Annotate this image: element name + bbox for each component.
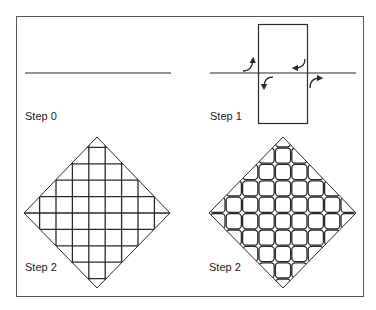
rounded-grid-cell: [341, 263, 356, 278]
rounded-grid-cell: [325, 164, 340, 179]
rounded-grid-cell: [275, 263, 290, 278]
rounded-grid-cell: [292, 148, 307, 163]
rounded-grid-cell: [325, 132, 340, 147]
rounded-grid-cell: [292, 246, 307, 261]
rounded-grid-cell: [243, 230, 258, 245]
rounded-grid-cell: [275, 148, 290, 163]
rounded-grid-cell: [292, 230, 307, 245]
rounded-grid-cell: [308, 279, 323, 294]
step2-left-label: Step 2: [25, 262, 57, 273]
rounded-grid-cell: [341, 181, 356, 196]
rounded-grid-cell: [325, 197, 340, 212]
rounded-grid-cell: [325, 279, 340, 294]
rounded-grid-cell: [210, 246, 225, 261]
rounded-grid-cell: [243, 263, 258, 278]
rounded-grid-cell: [259, 214, 274, 229]
rounded-grid-cell: [292, 164, 307, 179]
rounded-grid-cell: [275, 181, 290, 196]
rounded-grid-cell: [325, 148, 340, 163]
rounded-grid-cell: [210, 164, 225, 179]
rounded-grid-cell: [292, 279, 307, 294]
rounded-grid-cell: [357, 132, 372, 147]
rounded-grid-cell: [259, 197, 274, 212]
rounded-grid-cell: [226, 132, 241, 147]
rounded-grid-cell: [292, 132, 307, 147]
rounded-grid-cell: [226, 214, 241, 229]
rounded-grid-cell: [243, 214, 258, 229]
rounded-grid-cell: [357, 246, 372, 261]
rounded-grid-cell: [259, 230, 274, 245]
rounded-grid-cell: [275, 197, 290, 212]
arrow-right-bottom-right-icon: [310, 78, 320, 88]
rounded-grid-cell: [357, 197, 372, 212]
rounded-grid-cell: [210, 279, 225, 294]
rounded-grid-cell: [357, 230, 372, 245]
rounded-grid-cell: [226, 246, 241, 261]
rounded-grid-cell: [308, 230, 323, 245]
rounded-grid-cell: [325, 263, 340, 278]
rounded-grid-cell: [259, 132, 274, 147]
rounded-grid-cell: [226, 148, 241, 163]
arrow-down-left-icon: [264, 77, 273, 87]
rounded-grid-cell: [308, 197, 323, 212]
rounded-grid-cell: [243, 132, 258, 147]
rounded-grid-cell: [259, 263, 274, 278]
rounded-grid-cell: [275, 246, 290, 261]
rounded-grid-cell: [292, 214, 307, 229]
rounded-grid-cell: [243, 197, 258, 212]
arrow-up-left-icon: [243, 60, 253, 71]
rounded-grid-cell: [259, 164, 274, 179]
rounded-grid-cell: [308, 132, 323, 147]
rounded-grid-cell: [275, 279, 290, 294]
rounded-grid-cell: [226, 197, 241, 212]
rounded-grid-cell: [308, 181, 323, 196]
rounded-grid-cell: [259, 181, 274, 196]
rounded-grid-cell: [259, 279, 274, 294]
rounded-grid-cell: [275, 230, 290, 245]
rounded-grid-cell: [308, 148, 323, 163]
rounded-grid-cell: [243, 181, 258, 196]
rounded-grid-cell: [292, 181, 307, 196]
rounded-grid-cell: [357, 148, 372, 163]
rounded-grid-cell: [308, 214, 323, 229]
step1-rectangle: [259, 25, 308, 124]
step0-label: Step 0: [25, 111, 57, 122]
rounded-grid-cell: [259, 148, 274, 163]
rounded-grid-cell: [226, 279, 241, 294]
rounded-grid-cell: [357, 214, 372, 229]
step2-right-label: Step 2: [209, 262, 241, 273]
rounded-grid-cell: [357, 181, 372, 196]
rounded-grid-cell: [243, 148, 258, 163]
step1-figure: [210, 25, 356, 124]
rounded-grid-cell: [341, 148, 356, 163]
rounded-grid-cell: [341, 132, 356, 147]
rounded-grid-cell: [341, 246, 356, 261]
arrow-left-top-right-icon: [295, 59, 305, 68]
rounded-grid-cell: [325, 246, 340, 261]
rounded-grid-cell: [357, 164, 372, 179]
rounded-grid-cell: [308, 263, 323, 278]
rounded-grid-cell: [357, 263, 372, 278]
rounded-grid-cell: [243, 164, 258, 179]
rounded-grid-cell: [226, 164, 241, 179]
rounded-grid-cell: [275, 164, 290, 179]
step1-label: Step 1: [210, 111, 242, 122]
outer-frame: [17, 17, 364, 297]
rounded-grid-cell: [259, 246, 274, 261]
rounded-grid-cell: [292, 197, 307, 212]
rounded-grid-cell: [357, 279, 372, 294]
rounded-grid-cell: [210, 181, 225, 196]
rounded-grid-cell: [210, 230, 225, 245]
rounded-grid-cell: [341, 279, 356, 294]
rounded-grid-cell: [325, 214, 340, 229]
rounded-grid-cell: [275, 214, 290, 229]
rounded-grid-cell: [226, 181, 241, 196]
rounded-grid-cell: [210, 132, 225, 147]
rounded-grid-cell: [210, 148, 225, 163]
rounded-grid-cell: [243, 279, 258, 294]
rounded-grid-cell: [341, 230, 356, 245]
rounded-grid-cell: [341, 164, 356, 179]
rounded-grid-cell: [275, 132, 290, 147]
